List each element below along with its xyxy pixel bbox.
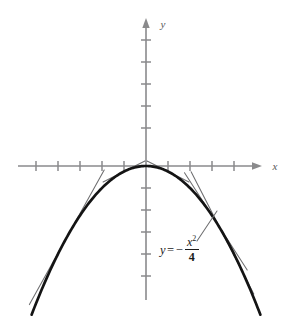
- axes-group: [18, 18, 262, 300]
- x-axis-arrow-icon: [252, 162, 262, 169]
- y-axis-arrow-icon: [142, 18, 149, 28]
- equation-fraction: x2 4: [185, 236, 199, 264]
- equation-numerator: x2: [185, 236, 198, 249]
- equation-lhs: y: [160, 244, 166, 257]
- x-axis-label: x: [272, 160, 278, 172]
- parabola-plot: x y: [0, 0, 293, 322]
- y-axis-label: y: [160, 18, 166, 30]
- tangent-lines-group: [29, 161, 253, 305]
- equation-leader-line: [197, 211, 217, 241]
- figure-canvas: x y y = − x2 4: [0, 0, 293, 322]
- equation-minus-sign: −: [176, 244, 183, 257]
- equation-exponent: 2: [192, 234, 196, 243]
- equation-denominator: 4: [189, 251, 195, 264]
- equation-annotation: y = − x2 4: [160, 236, 199, 264]
- equation-equals-sign: =: [167, 244, 174, 257]
